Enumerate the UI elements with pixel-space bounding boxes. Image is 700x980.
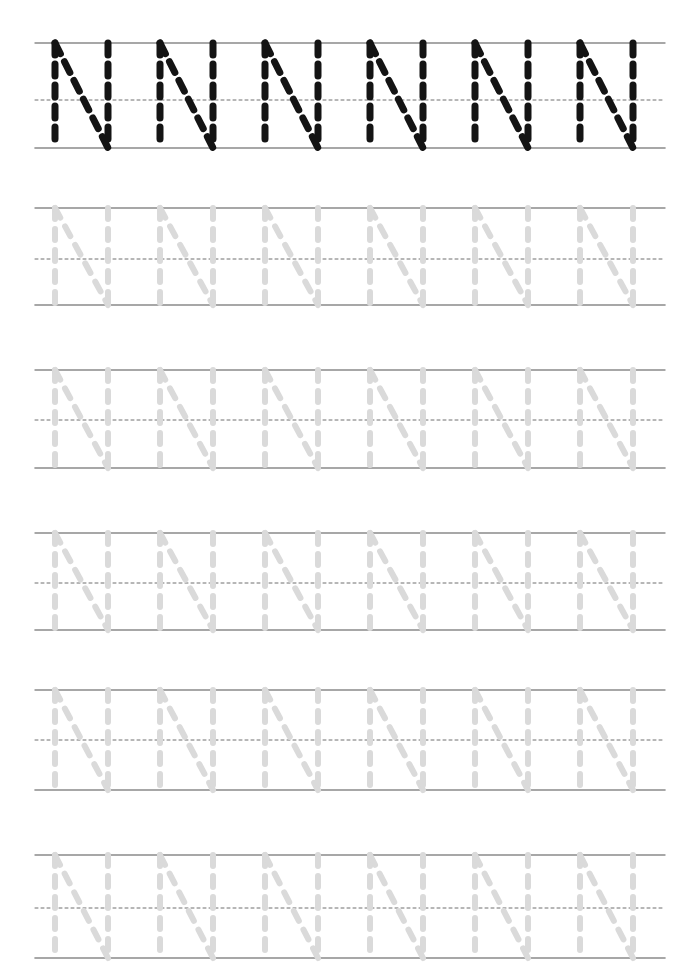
- practice-row-6: [0, 841, 700, 972]
- letter-glyph: [160, 208, 213, 305]
- letter-stroke-diagonal: [580, 533, 633, 630]
- letter-stroke-diagonal: [370, 43, 423, 148]
- letter-stroke-diagonal: [55, 533, 108, 630]
- letter-glyph: [475, 690, 528, 790]
- letter-stroke-diagonal: [475, 370, 528, 468]
- letter-stroke-diagonal: [265, 43, 318, 148]
- letter-glyph: [55, 690, 108, 790]
- letter-stroke-diagonal: [160, 690, 213, 790]
- letter-glyph: [370, 855, 423, 958]
- letter-stroke-diagonal: [55, 208, 108, 305]
- letter-stroke-diagonal: [475, 208, 528, 305]
- letter-glyph: [475, 208, 528, 305]
- letter-glyph: [265, 370, 318, 468]
- letter-stroke-diagonal: [160, 855, 213, 958]
- tracing-worksheet-page: [0, 0, 700, 980]
- letter-stroke-diagonal: [265, 690, 318, 790]
- letters-row-4: [0, 519, 700, 644]
- letter-glyph: [55, 43, 108, 148]
- letter-glyph: [160, 855, 213, 958]
- letter-glyph: [475, 855, 528, 958]
- letter-glyph: [475, 43, 528, 148]
- letter-glyph: [160, 370, 213, 468]
- letters-row-5: [0, 676, 700, 804]
- letter-glyph: [160, 533, 213, 630]
- letter-glyph: [55, 533, 108, 630]
- letter-stroke-diagonal: [265, 855, 318, 958]
- letter-stroke-diagonal: [475, 533, 528, 630]
- practice-row-3: [0, 356, 700, 482]
- letter-stroke-diagonal: [160, 43, 213, 148]
- letter-stroke-diagonal: [55, 370, 108, 468]
- letter-glyph: [580, 690, 633, 790]
- letter-stroke-diagonal: [265, 370, 318, 468]
- letter-glyph: [370, 690, 423, 790]
- letter-stroke-diagonal: [475, 43, 528, 148]
- letter-stroke-diagonal: [580, 370, 633, 468]
- letter-stroke-diagonal: [265, 533, 318, 630]
- letter-stroke-diagonal: [160, 370, 213, 468]
- letter-glyph: [475, 370, 528, 468]
- letter-glyph: [370, 370, 423, 468]
- letter-glyph: [580, 208, 633, 305]
- letter-glyph: [265, 208, 318, 305]
- letter-stroke-diagonal: [580, 690, 633, 790]
- letter-glyph: [265, 690, 318, 790]
- letter-stroke-diagonal: [475, 690, 528, 790]
- letter-stroke-diagonal: [265, 208, 318, 305]
- letter-stroke-diagonal: [580, 208, 633, 305]
- letter-stroke-diagonal: [55, 690, 108, 790]
- letter-glyph: [370, 43, 423, 148]
- letter-glyph: [475, 533, 528, 630]
- letter-stroke-diagonal: [55, 855, 108, 958]
- letter-glyph: [55, 855, 108, 958]
- letter-stroke-diagonal: [370, 855, 423, 958]
- letter-stroke-diagonal: [370, 208, 423, 305]
- letter-stroke-diagonal: [160, 208, 213, 305]
- letter-glyph: [370, 533, 423, 630]
- letter-glyph: [265, 533, 318, 630]
- letter-stroke-diagonal: [370, 370, 423, 468]
- letter-glyph: [580, 533, 633, 630]
- practice-row-2: [0, 194, 700, 319]
- letter-glyph: [55, 370, 108, 468]
- letter-glyph: [160, 690, 213, 790]
- practice-row-5: [0, 676, 700, 804]
- letter-stroke-diagonal: [580, 855, 633, 958]
- letter-glyph: [160, 43, 213, 148]
- letter-stroke-diagonal: [55, 43, 108, 148]
- letter-stroke-diagonal: [370, 690, 423, 790]
- letter-stroke-diagonal: [160, 533, 213, 630]
- letters-row-3: [0, 356, 700, 482]
- letter-glyph: [580, 370, 633, 468]
- letters-row-1: [0, 29, 700, 162]
- letter-glyph: [580, 855, 633, 958]
- letter-glyph: [265, 43, 318, 148]
- letters-row-6: [0, 841, 700, 972]
- letter-stroke-diagonal: [580, 43, 633, 148]
- letter-glyph: [265, 855, 318, 958]
- practice-row-1: [0, 29, 700, 162]
- letter-glyph: [55, 208, 108, 305]
- practice-row-4: [0, 519, 700, 644]
- letter-glyph: [580, 43, 633, 148]
- letter-stroke-diagonal: [475, 855, 528, 958]
- letter-glyph: [370, 208, 423, 305]
- letters-row-2: [0, 194, 700, 319]
- letter-stroke-diagonal: [370, 533, 423, 630]
